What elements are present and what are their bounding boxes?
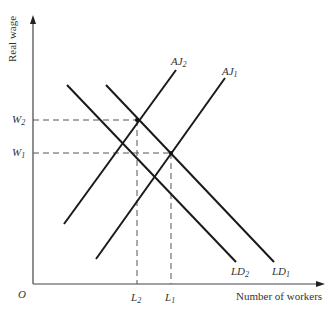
l2-label: L2 <box>131 292 141 305</box>
aj1-curve <box>96 78 225 259</box>
aj2-curve <box>64 70 176 224</box>
diagram-canvas <box>0 0 333 309</box>
ld1-curve <box>106 85 274 262</box>
aj1-label: AJ1 <box>222 66 238 79</box>
w1-label: W1 <box>12 147 25 160</box>
l1-label: L1 <box>165 292 175 305</box>
y-axis-arrow-icon <box>30 15 36 24</box>
x-axis-arrow-icon <box>316 281 325 287</box>
ld2-label: LD2 <box>231 266 249 279</box>
aj2-label: AJ2 <box>171 56 187 69</box>
ld1-label: LD1 <box>272 266 290 279</box>
w2-label: W2 <box>12 114 25 127</box>
origin-label: O <box>18 289 26 300</box>
y-axis-label: Real wage <box>6 16 18 62</box>
ld2-curve <box>67 85 236 262</box>
equilibrium-point-2 <box>135 118 139 122</box>
equilibrium-point-1 <box>169 151 173 155</box>
x-axis-label: Number of workers <box>236 291 322 302</box>
